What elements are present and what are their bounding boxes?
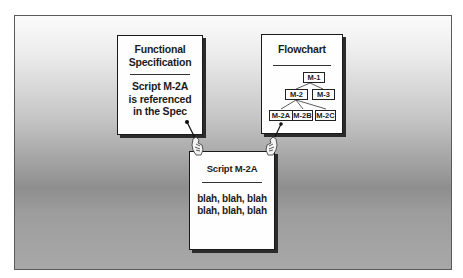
reference-pointer-lines: [0, 0, 463, 278]
pointing-hand-icon: [263, 135, 279, 157]
pointing-hand-icon: [190, 135, 206, 157]
